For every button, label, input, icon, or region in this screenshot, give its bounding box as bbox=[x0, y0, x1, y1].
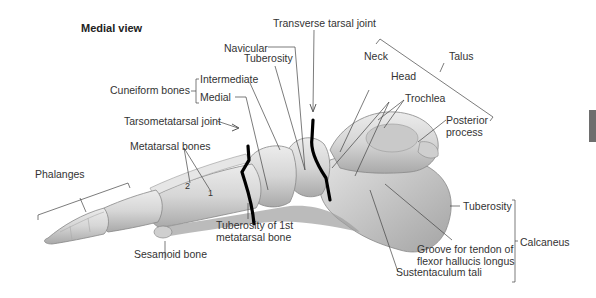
label-head: Head bbox=[391, 70, 416, 82]
label-cuneiform-bones: Cuneiform bones bbox=[110, 84, 190, 96]
label-sesamoid-bone: Sesamoid bone bbox=[134, 248, 207, 260]
label-tuberosity-1st-metatarsal-2: metatarsal bone bbox=[216, 231, 291, 243]
label-metatarsal-2: 2 bbox=[185, 180, 190, 192]
label-transverse-tarsal-joint: Transverse tarsal joint bbox=[273, 17, 376, 29]
distal-phalanges bbox=[45, 208, 109, 244]
label-calcaneus: Calcaneus bbox=[520, 236, 570, 248]
label-intermediate: Intermediate bbox=[200, 73, 258, 85]
chapter-side-tab bbox=[589, 110, 596, 142]
label-metatarsal-bones: Metatarsal bones bbox=[130, 140, 211, 152]
label-posterior-process-1: Posterior bbox=[446, 114, 488, 126]
label-groove-1: Groove for tendon of bbox=[417, 243, 513, 255]
label-navicular-tuberosity: Tuberosity bbox=[244, 52, 293, 64]
sesamoid-bone-shape bbox=[154, 226, 172, 238]
label-calcaneus-tuberosity: Tuberosity bbox=[463, 200, 512, 212]
label-sustentaculum-tali: Sustentaculum tali bbox=[396, 266, 482, 278]
view-title: Medial view bbox=[81, 22, 142, 34]
label-phalanges: Phalanges bbox=[35, 168, 85, 180]
label-posterior-process-2: process bbox=[446, 126, 483, 138]
label-metatarsal-1: 1 bbox=[208, 187, 213, 199]
foot-anatomy-figure: Medial view Transverse tarsal joint Navi… bbox=[0, 0, 596, 298]
label-talus: Talus bbox=[449, 50, 474, 62]
label-tuberosity-1st-metatarsal-1: Tuberosity of 1st bbox=[216, 219, 293, 231]
label-tarsometatarsal-joint: Tarsometatarsal joint bbox=[124, 115, 221, 127]
proximal-phalanx bbox=[101, 190, 163, 232]
label-neck: Neck bbox=[364, 50, 388, 62]
label-medial: Medial bbox=[200, 91, 231, 103]
label-trochlea: Trochlea bbox=[405, 92, 445, 104]
